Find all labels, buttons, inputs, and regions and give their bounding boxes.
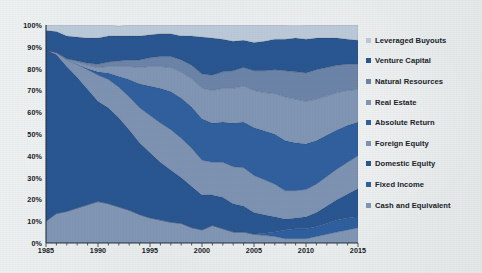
legend-item[interactable]: Natural Resources (366, 71, 482, 92)
legend-item[interactable]: Domestic Equity (366, 154, 482, 175)
x-axis-tick-label: 1985 (26, 246, 66, 255)
y-axis-tick-label: 80% (6, 65, 42, 74)
y-axis-tick-label: 10% (6, 217, 42, 226)
y-axis-tick-label: 20% (6, 195, 42, 204)
chart-legend: Leveraged BuyoutsVenture CapitalNatural … (366, 30, 482, 215)
legend-item-label: Leveraged Buyouts (375, 36, 446, 45)
y-axis-tick-label: 60% (6, 108, 42, 117)
legend-swatch-icon (366, 120, 371, 125)
y-axis-tick-label: 30% (6, 174, 42, 183)
legend-swatch-icon (366, 58, 371, 63)
legend-item-label: Cash and Equivalent (375, 201, 451, 210)
legend-item[interactable]: Foreign Equity (366, 133, 482, 154)
legend-item[interactable]: Absolute Return (366, 112, 482, 133)
legend-swatch-icon (366, 100, 371, 105)
x-axis-tick-label: 2005 (234, 246, 274, 255)
x-axis-tick-label: 2015 (338, 246, 378, 255)
y-axis-tick-label: 100% (6, 21, 42, 30)
x-axis-tick-label: 2000 (182, 246, 222, 255)
legend-swatch-icon (366, 182, 371, 187)
x-axis-tick-label: 1995 (130, 246, 170, 255)
legend-item-label: Natural Resources (375, 77, 443, 86)
area-series-group (46, 24, 358, 243)
legend-swatch-icon (366, 203, 371, 208)
legend-item-label: Absolute Return (375, 118, 435, 127)
legend-item[interactable]: Real Estate (366, 92, 482, 113)
x-axis-tick-label: 2010 (286, 246, 326, 255)
legend-swatch-icon (366, 161, 371, 166)
y-axis-tick-label: 70% (6, 86, 42, 95)
y-axis-tick-label: 50% (6, 130, 42, 139)
legend-item-label: Foreign Equity (375, 139, 429, 148)
legend-item[interactable]: Venture Capital (366, 51, 482, 72)
legend-swatch-icon (366, 38, 371, 43)
legend-item-label: Fixed Income (375, 180, 424, 189)
x-axis-tick-label: 1990 (78, 246, 118, 255)
legend-item[interactable]: Fixed Income (366, 174, 482, 195)
y-axis-tick-label: 90% (6, 43, 42, 52)
legend-item-label: Domestic Equity (375, 159, 435, 168)
legend-item-label: Venture Capital (375, 56, 431, 65)
legend-swatch-icon (366, 79, 371, 84)
legend-swatch-icon (366, 141, 371, 146)
legend-item-label: Real Estate (375, 98, 417, 107)
chart-figure: 0%10%20%30%40%50%60%70%80%90%100% 198519… (0, 0, 482, 273)
y-axis-tick-label: 40% (6, 152, 42, 161)
legend-item[interactable]: Leveraged Buyouts (366, 30, 482, 51)
legend-item[interactable]: Cash and Equivalent (366, 195, 482, 216)
